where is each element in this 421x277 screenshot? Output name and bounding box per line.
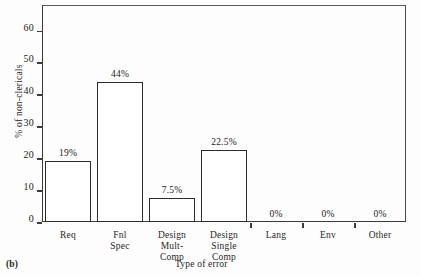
bar-value-label: 22.5% xyxy=(194,137,254,147)
category-label: Req xyxy=(38,230,98,241)
category-label: Env xyxy=(298,230,358,241)
y-tick-mark xyxy=(37,126,42,128)
y-tick-mark xyxy=(37,94,42,96)
y-tick-mark xyxy=(37,190,42,192)
x-tick-mark xyxy=(354,223,356,228)
y-tick-label: 40 xyxy=(24,86,34,96)
bar xyxy=(201,150,247,222)
y-tick-mark xyxy=(37,158,42,160)
x-axis-title: Type of error xyxy=(175,259,228,270)
bar-value-label: 19% xyxy=(38,148,98,158)
y-tick-label: 30 xyxy=(24,118,34,128)
y-tick-0: 0 xyxy=(0,222,42,223)
bar xyxy=(45,161,91,222)
figure-panel-b: 0102030405060 19%44%7.5%22.5%0%0%0% ReqF… xyxy=(0,0,421,277)
bar xyxy=(97,82,143,222)
y-tick-label: 50 xyxy=(24,54,34,64)
bar-value-label: 7.5% xyxy=(142,185,202,195)
y-tick-label: 20 xyxy=(24,150,34,160)
y-tick-mark xyxy=(37,222,42,224)
y-tick-mark xyxy=(37,62,42,64)
bar-value-label: 0% xyxy=(298,209,358,219)
bar-value-label: 0% xyxy=(246,209,306,219)
bar-value-label: 0% xyxy=(350,209,410,219)
y-tick-10: 10 xyxy=(0,190,42,191)
bar xyxy=(149,198,195,222)
x-tick-mark xyxy=(250,223,252,228)
y-tick-label: 60 xyxy=(24,23,34,33)
category-label: Fnl Spec xyxy=(90,230,150,252)
y-axis-title: % of non-clericals xyxy=(14,41,24,161)
y-tick-60: 60 xyxy=(0,31,42,32)
figure-caption: (b) xyxy=(6,259,18,270)
y-tick-mark xyxy=(37,31,42,33)
bar-value-label: 44% xyxy=(90,69,150,79)
x-tick-mark xyxy=(302,223,304,228)
y-tick-label: 0 xyxy=(29,214,34,224)
category-label: Lang xyxy=(246,230,306,241)
category-label: Other xyxy=(350,230,410,241)
y-tick-label: 10 xyxy=(24,182,34,192)
